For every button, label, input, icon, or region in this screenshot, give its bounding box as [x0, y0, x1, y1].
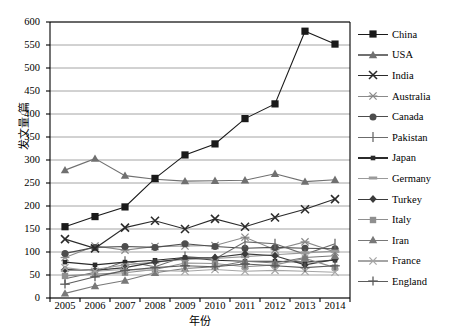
legend-marker [358, 171, 388, 185]
legend-item-iran[interactable]: Iran [358, 230, 452, 251]
legend-item-usa[interactable]: USA [358, 45, 452, 66]
legend-marker [358, 151, 388, 165]
marker-square [121, 203, 128, 210]
legend-symbol-australia [358, 89, 388, 103]
marker-plus-wide [368, 277, 378, 286]
marker-x-cross [369, 71, 377, 79]
legend-marker [358, 89, 388, 103]
y-tick-label: 300 [0, 155, 40, 165]
legend-label: Turkey [388, 194, 422, 205]
legend-symbol-usa [358, 48, 388, 62]
y-tick-label: 100 [0, 247, 40, 257]
marker-x-cross [61, 235, 69, 243]
marker-circle [152, 244, 159, 251]
series-line [65, 31, 335, 227]
x-axis-title: 年份 [50, 312, 350, 328]
legend-label: USA [388, 49, 413, 60]
legend-symbol-pakistan [358, 130, 388, 144]
marker-square-gray [62, 273, 68, 279]
y-tick-label: 0 [0, 293, 40, 303]
marker-circle [370, 113, 377, 120]
legend-marker [358, 110, 388, 124]
legend-symbol-india [358, 68, 388, 82]
y-tick-label: 200 [0, 201, 40, 211]
legend-marker [358, 68, 388, 82]
marker-circle [62, 250, 69, 257]
y-tick-label: 450 [0, 86, 40, 96]
y-tick-label: 550 [0, 40, 40, 50]
marker-square-gray [370, 216, 376, 222]
chart-figure: 发文量/篇 年份 0501001502002503003504004505005… [0, 0, 454, 333]
legend-item-japan[interactable]: Japan [358, 148, 452, 169]
marker-square [91, 213, 98, 220]
marker-square [211, 140, 218, 147]
legend-symbol-canada [358, 110, 388, 124]
y-tick-label: 150 [0, 224, 40, 234]
marker-triangle [61, 166, 69, 173]
marker-x-cross [211, 215, 219, 223]
series-line [65, 199, 335, 248]
y-tick-label: 50 [0, 270, 40, 280]
y-tick-label: 600 [0, 17, 40, 27]
legend-label: France [388, 255, 421, 266]
series-line [65, 264, 335, 284]
marker-circle [212, 243, 219, 250]
marker-circle [122, 243, 129, 250]
legend-label: Italy [388, 214, 411, 225]
legend-marker [358, 192, 388, 206]
legend-label: China [388, 29, 417, 40]
legend-label: Canada [388, 111, 424, 122]
legend-item-italy[interactable]: Italy [358, 209, 452, 230]
series-usa [61, 154, 339, 184]
marker-square [61, 223, 68, 230]
y-tick-label: 350 [0, 132, 40, 142]
marker-triangle [121, 171, 129, 178]
marker-x-light [369, 257, 376, 264]
marker-circle [182, 240, 189, 247]
legend-label: Iran [388, 235, 409, 246]
marker-square [241, 115, 248, 122]
legend-label: Japan [388, 152, 416, 163]
legend-symbol-turkey [358, 192, 388, 206]
legend-item-germany[interactable]: Germany [358, 168, 452, 189]
legend-item-china[interactable]: China [358, 24, 452, 45]
marker-triangle [331, 176, 339, 183]
legend-item-canada[interactable]: Canada [358, 106, 452, 127]
y-tick-label: 250 [0, 178, 40, 188]
x-tick-label: 2014 [312, 300, 358, 311]
legend-symbol-england [358, 274, 388, 288]
legend-label: England [388, 276, 427, 287]
legend-item-england[interactable]: England [358, 271, 452, 292]
legend-marker [358, 233, 388, 247]
legend-symbol-china [358, 27, 388, 41]
legend: ChinaUSAIndiaAustraliaCanadaPakistanJapa… [358, 24, 452, 292]
marker-triangle [369, 51, 377, 58]
legend-label: Australia [388, 91, 431, 102]
legend-item-india[interactable]: India [358, 65, 452, 86]
marker-small-square [63, 260, 68, 265]
legend-symbol-japan [358, 151, 388, 165]
y-tick-label: 400 [0, 109, 40, 119]
marker-small-square [371, 156, 376, 161]
marker-x-cross [271, 214, 279, 222]
marker-square [301, 28, 308, 35]
legend-item-france[interactable]: France [358, 251, 452, 272]
marker-square [369, 31, 376, 38]
legend-label: Pakistan [388, 132, 428, 143]
y-tick-label: 500 [0, 63, 40, 73]
marker-triangle [91, 154, 99, 161]
marker-x-cross [331, 195, 339, 203]
legend-item-australia[interactable]: Australia [358, 86, 452, 107]
series-china [61, 28, 338, 231]
series-japan [63, 255, 338, 267]
legend-marker [358, 130, 388, 144]
marker-square [331, 40, 338, 47]
marker-square [271, 100, 278, 107]
marker-triangle [369, 236, 377, 243]
marker-x-cross [151, 217, 159, 225]
legend-label: India [388, 70, 414, 81]
marker-triangle [271, 170, 279, 177]
legend-item-turkey[interactable]: Turkey [358, 189, 452, 210]
legend-item-pakistan[interactable]: Pakistan [358, 127, 452, 148]
series-line [65, 159, 335, 182]
